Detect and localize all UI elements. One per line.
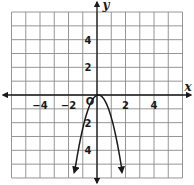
origin-label: O [86,96,95,107]
x-tick-label: 4 [151,100,158,111]
coordinate-plane: −4−2244224Oxy [0,0,194,185]
y-tick-label: 2 [85,62,92,73]
axes [3,2,191,183]
y-tick-label: 4 [85,35,92,46]
x-tick-label: 2 [122,100,129,111]
y-axis-label: y [102,0,111,12]
x-axis-label: x [183,80,192,94]
x-tick-label: −2 [61,100,76,111]
x-tick-label: −4 [32,100,47,111]
y-tick-label: 4 [85,145,92,156]
y-tick-label: 2 [85,118,92,129]
parabola-curve [74,95,122,172]
parabola-path [74,95,122,172]
